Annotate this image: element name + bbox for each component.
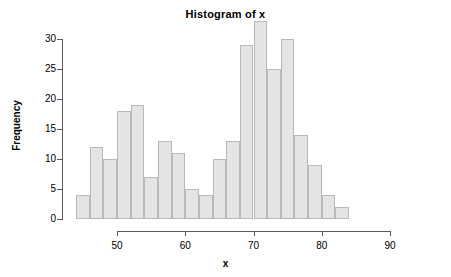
histogram-bar xyxy=(281,39,295,219)
histogram-bar xyxy=(226,141,240,219)
x-axis-tick xyxy=(117,231,118,236)
histogram-bar xyxy=(254,21,268,219)
y-axis-tick-label: 10 xyxy=(16,154,56,164)
histogram-bar xyxy=(158,141,172,219)
y-axis-tick xyxy=(57,189,62,190)
histogram-bar xyxy=(117,111,131,219)
histogram-bar xyxy=(308,165,322,219)
y-axis-label: Frequency xyxy=(11,66,22,186)
x-axis-tick-label: 70 xyxy=(234,240,274,251)
x-axis-tick xyxy=(322,231,323,236)
y-axis-tick xyxy=(57,159,62,160)
histogram-bar xyxy=(76,195,90,219)
x-axis-tick xyxy=(390,231,391,236)
y-axis-tick xyxy=(57,39,62,40)
histogram-bar xyxy=(267,69,281,219)
x-axis-tick-label: 50 xyxy=(97,240,137,251)
histogram-bar xyxy=(144,177,158,219)
x-axis-label: x xyxy=(0,258,451,269)
x-axis-tick-label: 90 xyxy=(370,240,410,251)
y-axis-tick xyxy=(57,99,62,100)
histogram-bar xyxy=(199,195,213,219)
x-axis-tick xyxy=(185,231,186,236)
histogram-bar xyxy=(90,147,104,219)
x-axis-tick-label: 60 xyxy=(165,240,205,251)
y-axis-tick-label: 25 xyxy=(16,64,56,74)
y-axis-tick-label: 15 xyxy=(16,124,56,134)
y-axis-tick xyxy=(57,69,62,70)
x-axis-tick xyxy=(254,231,255,236)
y-axis-line xyxy=(62,39,63,220)
y-axis-tick-label: 0 xyxy=(16,214,56,224)
plot-area: 051015202530 5060708090 Frequency x xyxy=(0,0,451,277)
x-axis-tick-label: 80 xyxy=(302,240,342,251)
histogram-bar xyxy=(335,207,349,219)
histogram-bar xyxy=(103,159,117,219)
y-axis-tick-label: 30 xyxy=(16,34,56,44)
histogram-bar xyxy=(172,153,186,219)
y-axis-tick-label: 20 xyxy=(16,94,56,104)
histogram-bar xyxy=(294,135,308,219)
y-axis-tick xyxy=(57,129,62,130)
histogram-bar xyxy=(213,159,227,219)
histogram-bar xyxy=(185,189,199,219)
histogram-bar xyxy=(322,195,336,219)
histogram-bar xyxy=(131,105,145,219)
histogram-chart: Histogram of x 051015202530 5060708090 F… xyxy=(0,0,451,277)
y-axis-tick-label: 5 xyxy=(16,184,56,194)
y-axis-tick xyxy=(57,219,62,220)
histogram-bar xyxy=(240,45,254,219)
